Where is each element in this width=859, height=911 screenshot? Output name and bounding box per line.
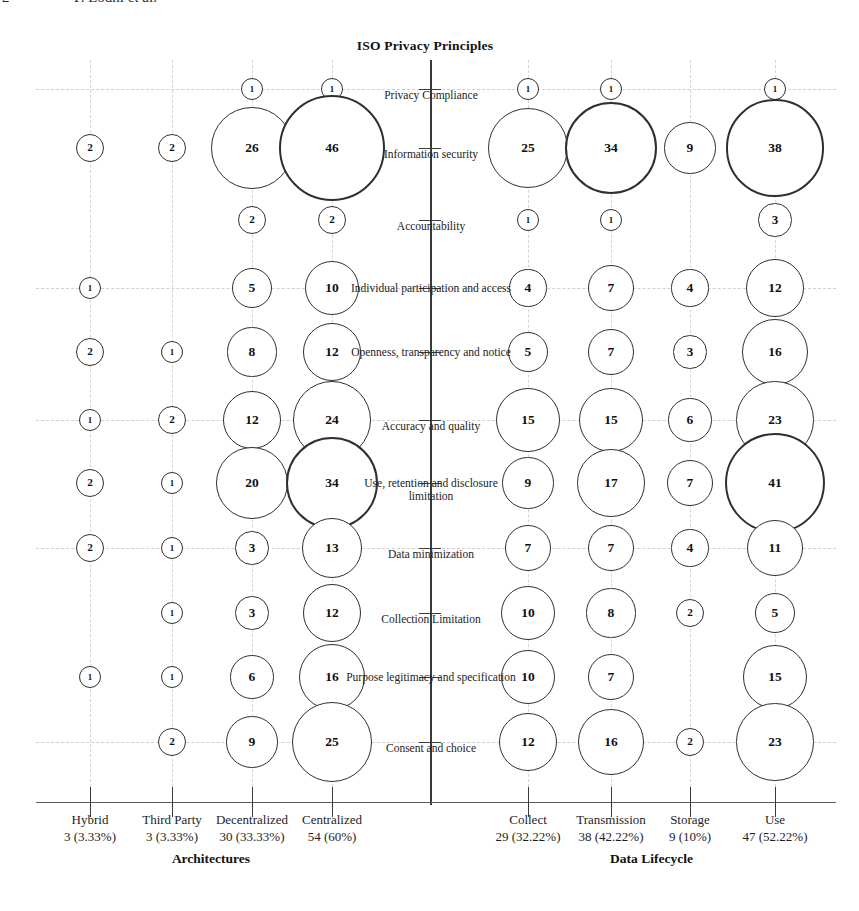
principle-row-label: Use, retention and disclosure limitation xyxy=(346,477,516,503)
principle-row-label: Consent and choice xyxy=(346,742,516,755)
category-total: 54 (60%) xyxy=(267,828,397,845)
category-axis-label: Centralized54 (60%) xyxy=(267,811,397,845)
principle-row-label: Accuracy and quality xyxy=(346,420,516,433)
principle-row-label: Purpose legitimacy and specification xyxy=(346,671,516,684)
bubble-datapoint[interactable]: 1 xyxy=(161,666,184,689)
principle-row-label: Information security xyxy=(346,148,516,161)
bubble-datapoint[interactable]: 1 xyxy=(764,78,787,101)
bubble-datapoint[interactable]: 8 xyxy=(227,327,276,376)
principle-row-label: Collection Limitation xyxy=(346,613,516,626)
bubble-datapoint[interactable]: 1 xyxy=(600,209,623,232)
bubble-datapoint[interactable]: 1 xyxy=(600,78,623,101)
principle-row-label: Privacy Compliance xyxy=(346,89,516,102)
bubble-datapoint[interactable]: 15 xyxy=(579,388,643,452)
bubble-datapoint[interactable]: 7 xyxy=(588,654,634,700)
bubble-datapoint[interactable]: 2 xyxy=(158,134,187,163)
bubble-datapoint[interactable]: 4 xyxy=(671,269,708,306)
principle-row-label: Accountability xyxy=(346,220,516,233)
bubble-datapoint[interactable]: 1 xyxy=(161,602,184,625)
axis-group-label: Architectures xyxy=(81,851,341,867)
bubble-datapoint[interactable]: 38 xyxy=(726,99,823,196)
bubble-datapoint[interactable]: 8 xyxy=(586,588,635,637)
bubble-datapoint[interactable]: 1 xyxy=(79,277,102,300)
bubble-datapoint[interactable]: 5 xyxy=(232,268,273,309)
bubble-datapoint[interactable]: 6 xyxy=(230,655,274,699)
principle-row-label: Individual participation and access xyxy=(346,282,516,295)
bubble-datapoint[interactable]: 16 xyxy=(578,709,644,775)
bubble-datapoint[interactable]: 3 xyxy=(235,596,268,629)
bubble-datapoint[interactable]: 9 xyxy=(226,716,278,768)
category-name: Centralized xyxy=(267,811,397,828)
bubble-datapoint[interactable]: 2 xyxy=(676,728,705,757)
bubble-datapoint[interactable]: 2 xyxy=(676,599,705,628)
bubble-datapoint[interactable]: 2 xyxy=(318,206,347,235)
bubble-datapoint[interactable]: 2 xyxy=(158,406,187,435)
bubble-datapoint[interactable]: 2 xyxy=(76,469,105,498)
bubble-datapoint[interactable]: 1 xyxy=(161,472,184,495)
bubble-datapoint[interactable]: 9 xyxy=(664,122,716,174)
bubble-datapoint[interactable]: 23 xyxy=(736,703,813,780)
gridline-vertical xyxy=(90,60,91,802)
bubble-datapoint[interactable]: 1 xyxy=(79,666,102,689)
bubble-datapoint[interactable]: 17 xyxy=(577,449,645,517)
category-name: Use xyxy=(710,811,840,828)
bubble-datapoint[interactable]: 3 xyxy=(673,335,706,368)
bubble-datapoint[interactable]: 2 xyxy=(76,134,105,163)
bubble-datapoint[interactable]: 6 xyxy=(668,398,712,442)
principle-row-label: Data minimization xyxy=(346,548,516,561)
bubble-datapoint[interactable]: 5 xyxy=(755,593,796,634)
axis-group-label: Data Lifecycle xyxy=(522,851,782,867)
bubble-datapoint[interactable]: 2 xyxy=(238,206,267,235)
principle-row-label: Openness, transparency and notice xyxy=(346,346,516,359)
bubble-datapoint[interactable]: 41 xyxy=(725,433,826,534)
bubble-matrix-chart: ISO Privacy Principles 21212212121111212… xyxy=(0,0,859,911)
bubble-datapoint[interactable]: 7 xyxy=(588,525,634,571)
bubble-datapoint[interactable]: 2 xyxy=(76,534,105,563)
bubble-datapoint[interactable]: 1 xyxy=(79,409,102,432)
bubble-datapoint[interactable]: 1 xyxy=(241,78,264,101)
bubble-datapoint[interactable]: 1 xyxy=(517,78,540,101)
bubble-datapoint[interactable]: 12 xyxy=(223,391,281,449)
bubble-datapoint[interactable]: 7 xyxy=(667,460,713,506)
category-total: 47 (52.22%) xyxy=(710,828,840,845)
bubble-datapoint[interactable]: 34 xyxy=(565,102,657,194)
bubble-datapoint[interactable]: 1 xyxy=(161,341,184,364)
bubble-datapoint[interactable]: 12 xyxy=(746,259,804,317)
bubble-datapoint[interactable]: 16 xyxy=(742,319,808,385)
bubble-datapoint[interactable]: 7 xyxy=(588,265,634,311)
chart-title: ISO Privacy Principles xyxy=(115,38,735,54)
bubble-datapoint[interactable]: 15 xyxy=(743,645,807,709)
bubble-datapoint[interactable]: 20 xyxy=(216,447,289,520)
category-axis-label: Use47 (52.22%) xyxy=(710,811,840,845)
bubble-datapoint[interactable]: 4 xyxy=(671,529,708,566)
bubble-datapoint[interactable]: 11 xyxy=(747,520,803,576)
bubble-datapoint[interactable]: 1 xyxy=(161,537,184,560)
bubble-datapoint[interactable]: 3 xyxy=(235,531,268,564)
horizontal-axis xyxy=(36,802,836,803)
bubble-datapoint[interactable]: 2 xyxy=(158,728,187,757)
bubble-datapoint[interactable]: 7 xyxy=(588,329,634,375)
bubble-datapoint[interactable]: 1 xyxy=(517,209,540,232)
bubble-datapoint[interactable]: 3 xyxy=(758,203,791,236)
bubble-datapoint[interactable]: 2 xyxy=(76,338,105,367)
